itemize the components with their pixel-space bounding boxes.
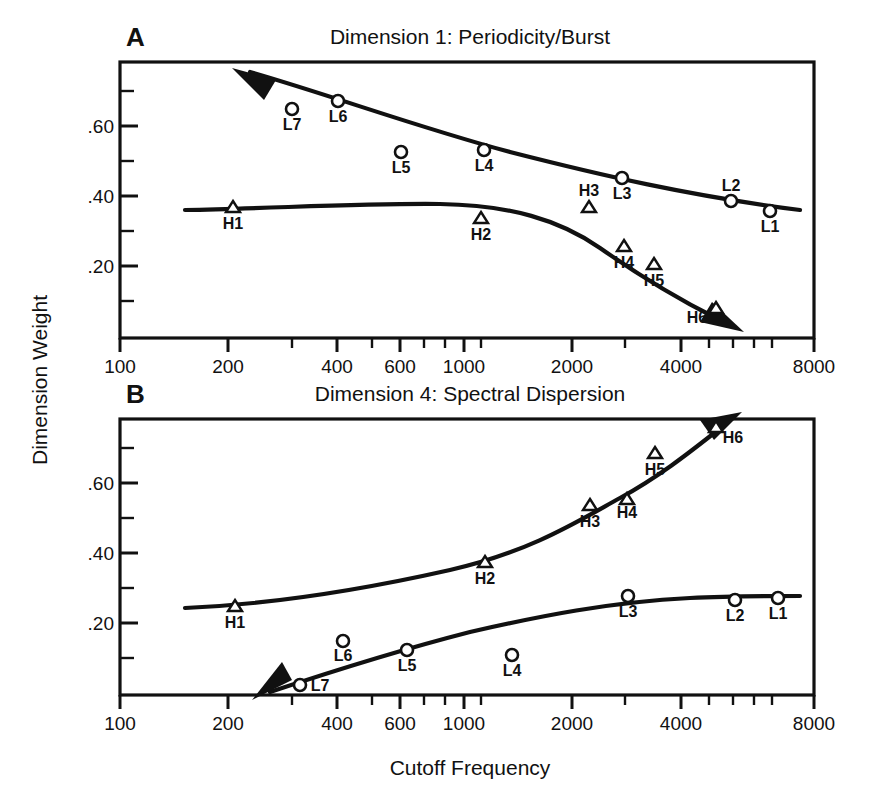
point-label-b-l3: L3 xyxy=(619,603,638,620)
panel-a-ytick-20: .20 xyxy=(88,256,114,277)
data-point-b-h1 xyxy=(228,600,242,611)
point-label-h5: H5 xyxy=(644,272,665,289)
panel-b-xtick-4000: 4000 xyxy=(660,713,702,734)
panel-a: A Dimension 1: Periodicity/Burst .60 .40… xyxy=(88,22,836,377)
panel-a-xtick-400: 400 xyxy=(321,356,353,377)
point-label-h1: H1 xyxy=(223,215,244,232)
data-point-b-l3 xyxy=(622,590,634,602)
figure-svg: Dimension Weight Cutoff Frequency A Dime… xyxy=(0,0,874,796)
point-label-h4: H4 xyxy=(614,254,635,271)
data-point-b-l6 xyxy=(337,635,349,647)
data-point-l4 xyxy=(478,144,490,156)
panel-b-x-ticks xyxy=(120,695,814,709)
y-axis-title: Dimension Weight xyxy=(28,295,51,465)
panel-b-xtick-2000: 2000 xyxy=(551,713,593,734)
panel-a-xtick-200: 200 xyxy=(212,356,244,377)
point-label-b-h1: H1 xyxy=(225,614,246,631)
point-label-b-l2: L2 xyxy=(726,607,745,624)
data-point-h2 xyxy=(474,212,488,223)
panel-b-curve-h xyxy=(185,430,718,608)
data-point-l2 xyxy=(725,195,737,207)
point-label-b-h3: H3 xyxy=(580,513,601,530)
data-point-b-h5 xyxy=(648,447,662,458)
point-label-l6: L6 xyxy=(329,108,348,125)
x-axis-title: Cutoff Frequency xyxy=(390,756,551,779)
point-label-b-h2: H2 xyxy=(475,570,496,587)
data-point-b-l4 xyxy=(506,649,518,661)
data-point-h4 xyxy=(617,240,631,251)
data-point-l5 xyxy=(395,146,407,158)
data-point-h5 xyxy=(647,258,661,269)
panel-b-xtick-400: 400 xyxy=(321,713,353,734)
panel-b-ytick-60: .60 xyxy=(88,473,114,494)
panel-b-letter: B xyxy=(126,379,145,409)
panel-b-xtick-1000: 1000 xyxy=(443,713,485,734)
panel-b-xtick-8000: 8000 xyxy=(793,713,835,734)
panel-a-y-ticks xyxy=(120,91,138,301)
point-label-h3: H3 xyxy=(579,182,600,199)
point-label-l3: L3 xyxy=(613,185,632,202)
panel-b-xtick-600: 600 xyxy=(384,713,416,734)
panel-a-xtick-8000: 8000 xyxy=(793,356,835,377)
panel-b-ytick-40: .40 xyxy=(88,543,114,564)
point-label-b-l6: L6 xyxy=(334,647,353,664)
panel-b: B Dimension 4: Spectral Dispersion .60 .… xyxy=(88,379,836,734)
point-label-h6: H6 xyxy=(687,309,708,326)
data-point-l7 xyxy=(286,103,298,115)
panel-a-frame xyxy=(120,62,814,338)
data-point-b-l5 xyxy=(401,644,413,656)
point-label-l5: L5 xyxy=(392,159,411,176)
point-label-b-l4: L4 xyxy=(503,662,522,679)
data-point-h1 xyxy=(226,201,240,212)
panel-a-xtick-4000: 4000 xyxy=(660,356,702,377)
point-label-b-h4: H4 xyxy=(617,504,638,521)
panel-b-xtick-200: 200 xyxy=(212,713,244,734)
panel-a-x-ticks xyxy=(120,338,814,352)
data-point-b-l2 xyxy=(729,594,741,606)
point-label-b-l5: L5 xyxy=(398,657,417,674)
panel-b-y-ticks xyxy=(120,448,138,658)
panel-a-xtick-1000: 1000 xyxy=(443,356,485,377)
figure-root: Dimension Weight Cutoff Frequency A Dime… xyxy=(0,0,874,796)
point-label-b-h5: H5 xyxy=(645,461,666,478)
panel-a-curve-l xyxy=(250,72,800,210)
panel-a-xtick-2000: 2000 xyxy=(551,356,593,377)
panel-b-title: Dimension 4: Spectral Dispersion xyxy=(315,382,625,405)
panel-b-points-l: L7 L6 L5 L4 L3 L2 L1 xyxy=(294,590,787,694)
data-point-l1 xyxy=(764,205,776,217)
data-point-l3 xyxy=(616,172,628,184)
point-label-b-l1: L1 xyxy=(769,605,788,622)
point-label-b-h6: H6 xyxy=(723,429,744,446)
panel-a-xtick-100: 100 xyxy=(104,356,136,377)
data-point-b-h3 xyxy=(583,499,597,510)
point-label-l4: L4 xyxy=(475,157,494,174)
point-label-l2: L2 xyxy=(722,177,741,194)
panel-b-ytick-20: .20 xyxy=(88,613,114,634)
data-point-b-l7 xyxy=(294,679,306,691)
point-label-l7: L7 xyxy=(283,116,302,133)
panel-a-curve-h xyxy=(185,204,716,318)
point-label-l1: L1 xyxy=(761,218,780,235)
panel-a-letter: A xyxy=(126,22,145,52)
panel-b-xtick-100: 100 xyxy=(104,713,136,734)
panel-a-ytick-60: .60 xyxy=(88,116,114,137)
panel-b-frame xyxy=(120,419,814,695)
panel-a-title: Dimension 1: Periodicity/Burst xyxy=(330,25,610,48)
data-point-l6 xyxy=(332,95,344,107)
data-point-b-l1 xyxy=(772,592,784,604)
point-label-h2: H2 xyxy=(471,226,492,243)
panel-a-xtick-600: 600 xyxy=(384,356,416,377)
point-label-b-l7: L7 xyxy=(311,677,330,694)
panel-a-ytick-40: .40 xyxy=(88,186,114,207)
data-point-h3 xyxy=(582,201,596,212)
